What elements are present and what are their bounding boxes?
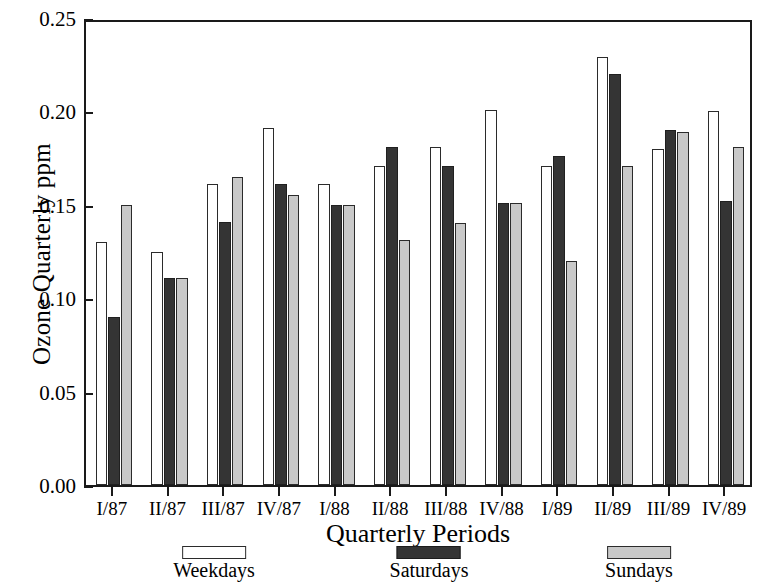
bar-group [430,22,467,485]
bar-saturdays-I-87 [108,317,120,485]
bar-sundays-I-87 [121,205,133,485]
x-axis-tick-label: III/88 [424,498,467,520]
y-axis-tick-labels: 0.000.050.100.150.200.25 [20,0,76,582]
x-axis-tick-mark [556,487,558,496]
bar-weekdays-II-87 [151,252,163,486]
x-axis-tick-mark [723,487,725,496]
bar-saturdays-IV-87 [275,184,287,485]
x-axis-tick-mark [334,487,336,496]
x-axis-tick-mark [668,487,670,496]
x-axis-tick-label: IV/88 [479,498,523,520]
y-axis-tick-mark [84,393,93,395]
bar-saturdays-III-87 [219,222,231,485]
x-axis-tick-mark [612,487,614,496]
bar-saturdays-I-88 [331,205,343,485]
x-axis-tick-label: II/89 [594,498,631,520]
bars-container [86,22,750,485]
bar-weekdays-I-89 [541,166,553,485]
x-axis-tick-label: IV/89 [702,498,746,520]
x-axis-tick-label: IV/87 [257,498,301,520]
chart-legend: WeekdaysSaturdaysSundays [84,546,757,582]
bar-sundays-IV-87 [288,195,300,485]
x-axis-tick-mark [222,487,224,496]
y-axis-tick-label: 0.00 [20,476,76,497]
y-axis-tick-mark [84,19,93,21]
bar-sundays-II-88 [399,240,411,485]
x-axis-tick-mark [111,487,113,496]
y-axis-tick-label: 0.20 [20,102,76,123]
bar-sundays-II-87 [176,278,188,485]
x-axis-tick-mark [278,487,280,496]
bar-weekdays-I-87 [96,242,108,485]
y-axis-tick-label: 0.10 [20,289,76,310]
bar-saturdays-II-88 [386,147,398,485]
legend-item-sundays: Sundays [605,546,673,581]
bar-group [263,22,300,485]
bar-weekdays-III-89 [652,149,664,485]
legend-label: Saturdays [390,560,469,581]
bar-group [597,22,634,485]
x-axis-tick-label: II/87 [149,498,186,520]
bar-group [151,22,188,485]
bar-weekdays-III-87 [207,184,219,485]
bar-weekdays-I-88 [318,184,330,485]
bar-saturdays-III-88 [442,166,454,485]
bar-weekdays-III-88 [430,147,442,485]
bar-sundays-II-89 [622,166,634,485]
x-axis-tick-label: I/87 [97,498,128,520]
bar-saturdays-I-89 [553,156,565,485]
bar-group [541,22,578,485]
x-axis-tick-label: I/88 [319,498,350,520]
bar-group [374,22,411,485]
bar-saturdays-IV-88 [498,203,510,485]
y-axis-tick-mark [84,486,93,488]
bar-sundays-IV-89 [733,147,745,485]
y-axis-tick-label: 0.25 [20,9,76,30]
bar-group [485,22,522,485]
bar-sundays-III-87 [232,177,244,485]
x-axis-tick-label: I/89 [542,498,573,520]
x-axis-tick-label: II/88 [372,498,409,520]
bar-weekdays-II-89 [597,57,609,485]
y-axis-tick-label: 0.15 [20,196,76,217]
ozone-quarterly-bar-chart: Ozone Quarterly ppm 0.000.050.100.150.20… [0,0,757,582]
bar-saturdays-III-89 [665,130,677,485]
bar-weekdays-IV-88 [485,110,497,485]
legend-label: Weekdays [173,560,255,581]
y-axis-tick-mark [84,299,93,301]
x-axis-tick-label: III/87 [202,498,245,520]
bar-sundays-III-89 [677,132,689,485]
legend-label: Sundays [605,560,673,581]
bar-group [207,22,244,485]
legend-swatch-sundays [607,546,671,559]
legend-swatch-saturdays [397,546,461,559]
bar-group [96,22,133,485]
bar-saturdays-II-87 [164,278,176,485]
bar-sundays-IV-88 [510,203,522,485]
y-axis-tick-label: 0.05 [20,383,76,404]
plot-area [84,20,752,487]
bar-sundays-I-88 [343,205,355,485]
bar-saturdays-IV-89 [720,201,732,485]
bar-group [708,22,745,485]
bar-saturdays-II-89 [609,74,621,485]
y-axis-tick-mark [84,112,93,114]
x-axis-tick-mark [389,487,391,496]
x-axis-tick-mark [501,487,503,496]
bar-weekdays-II-88 [374,166,386,485]
bar-group [652,22,689,485]
x-axis-tick-mark [445,487,447,496]
bar-group [318,22,355,485]
bar-weekdays-IV-89 [708,111,720,485]
bar-sundays-I-89 [566,261,578,485]
y-axis-tick-mark [84,206,93,208]
bar-sundays-III-88 [455,223,467,485]
x-axis-tick-label: III/89 [647,498,690,520]
x-axis-title: Quarterly Periods [84,519,752,549]
bar-weekdays-IV-87 [263,128,275,485]
legend-swatch-weekdays [182,546,246,559]
legend-item-saturdays: Saturdays [390,546,469,581]
x-axis-tick-mark [167,487,169,496]
legend-item-weekdays: Weekdays [173,546,255,581]
